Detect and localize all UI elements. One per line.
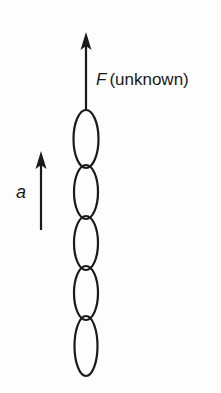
force-symbol: F bbox=[96, 70, 106, 89]
chain bbox=[74, 110, 99, 376]
chain-link-3 bbox=[74, 216, 98, 270]
force-label: F(unknown) bbox=[96, 70, 189, 90]
chain-diagram: F(unknown) a bbox=[0, 0, 221, 393]
acceleration-label: a bbox=[16, 182, 26, 203]
acceleration-arrow bbox=[36, 151, 47, 230]
force-note: (unknown) bbox=[109, 70, 188, 89]
force-arrow bbox=[81, 32, 92, 110]
chain-link-5 bbox=[75, 316, 98, 376]
chain-link-1 bbox=[74, 110, 99, 168]
chain-link-2 bbox=[74, 165, 98, 219]
diagram-canvas bbox=[0, 0, 221, 393]
chain-link-4 bbox=[74, 266, 98, 320]
